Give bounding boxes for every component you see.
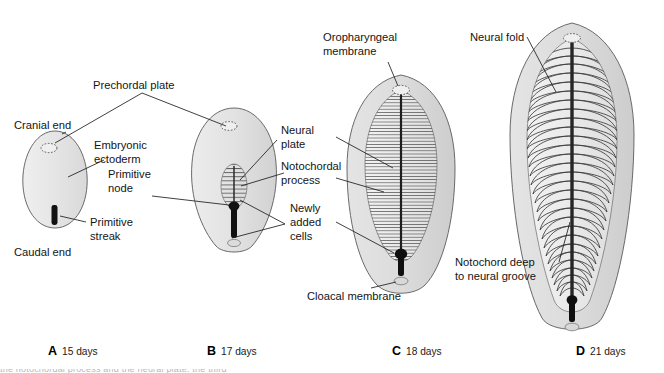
leader-prechordal-plate-b: [142, 93, 226, 126]
label-newly-added-cells-line1: Newly: [290, 202, 321, 214]
label-oropharyngeal-membrane-line2: membrane: [323, 45, 376, 57]
panel-days-d: 21 days: [590, 346, 626, 357]
cropped-caption-sliver: the notochordal process and the neural p…: [0, 369, 664, 373]
label-neural-plate-line1: Neural: [281, 124, 314, 136]
panel-days-a: 15 days: [62, 346, 98, 357]
label-primitive-streak-line2: streak: [90, 230, 121, 242]
label-newly-added-cells-line2: added: [290, 216, 321, 228]
label-newly-added-cells-line3: cells: [290, 230, 313, 242]
panel-d-cloacal-membrane: [565, 323, 579, 331]
panel-c-oropharyngeal-membrane: [393, 85, 410, 94]
panel-letter-d: D: [576, 344, 585, 358]
panel-letter-b: B: [207, 344, 216, 358]
label-neural-fold: Neural fold: [470, 31, 524, 43]
label-embryonic-ectoderm-line2: ectoderm: [94, 153, 141, 165]
label-notochordal-process-line1: Notochordal: [281, 160, 341, 172]
label-notochordal-process-line2: process: [281, 174, 321, 186]
label-cranial-end: Cranial end: [14, 119, 71, 131]
label-neural-plate-line2: plate: [281, 138, 305, 150]
label-embryonic-ectoderm-line1: Embryonic: [94, 139, 147, 151]
panel-b-primitive-streak: [231, 206, 237, 238]
panel-captions: A 15 days B 17 days C 18 days D 21 days: [48, 344, 626, 358]
panel-b-prechordal-plate: [221, 122, 237, 131]
panel-c-cloacal-membrane: [394, 277, 408, 285]
cropped-caption-text: the notochordal process and the neural p…: [0, 369, 664, 373]
panel-letter-a: A: [48, 344, 57, 358]
label-primitive-node-line2: node: [108, 182, 133, 194]
panel-a-primitive-streak: [52, 205, 58, 225]
label-notochord-deep-line2: to neural groove: [455, 270, 536, 282]
panel-d-oropharyngeal-membrane: [564, 34, 581, 43]
panel-b-diagram: [192, 108, 277, 252]
figure-canvas: Prechordal plate Cranial end Embryonic e…: [0, 0, 664, 373]
label-oropharyngeal-membrane-line1: Oropharyngeal: [323, 31, 397, 43]
panel-days-c: 18 days: [406, 346, 442, 357]
label-primitive-streak-line1: Primitive: [90, 216, 133, 228]
label-caudal-end: Caudal end: [14, 246, 71, 258]
panel-a-prechordal-plate: [41, 143, 57, 152]
label-cloacal-membrane: Cloacal membrane: [307, 290, 401, 302]
label-prechordal-plate: Prechordal plate: [93, 79, 174, 91]
embryology-figure: Prechordal plate Cranial end Embryonic e…: [0, 0, 664, 373]
panel-c-primitive-streak: [398, 254, 404, 276]
panel-letter-c: C: [392, 344, 401, 358]
panel-c-diagram: [347, 75, 455, 293]
panel-d-primitive-streak: [569, 300, 575, 322]
panel-b-cloacal-membrane: [228, 239, 241, 246]
panel-d-diagram: [510, 23, 634, 331]
leader-prechordal-plate-a: [55, 93, 142, 143]
panel-a-diagram: [23, 131, 87, 228]
label-notochord-deep-line1: Notochord deep: [455, 256, 535, 268]
label-primitive-node-line1: Primitive: [108, 168, 151, 180]
panel-days-b: 17 days: [221, 346, 257, 357]
